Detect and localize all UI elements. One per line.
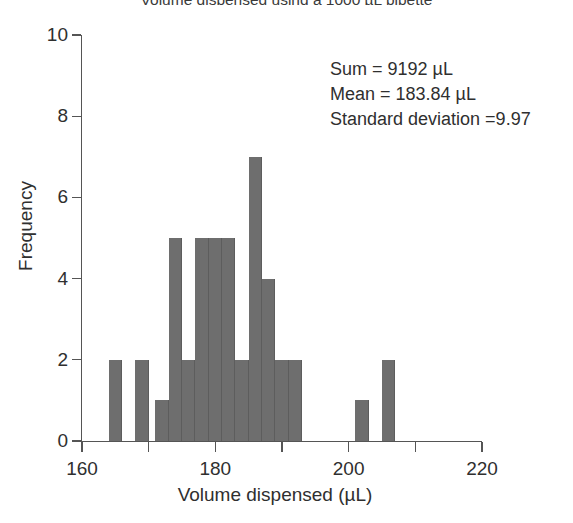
stat-mean: Mean = 183.84 µL	[330, 82, 573, 107]
x-tick-label-220: 220	[447, 459, 517, 479]
x-tick-210	[415, 442, 416, 452]
histogram-bar	[135, 360, 148, 441]
y-tick-0	[72, 440, 81, 441]
x-tick-180	[215, 442, 216, 452]
y-tick-label-2: 2	[22, 350, 68, 369]
x-tick-170	[148, 442, 149, 452]
histogram-bar	[209, 238, 222, 441]
histogram-bar	[355, 400, 368, 441]
x-tick-160	[81, 442, 82, 452]
x-axis-title: Volume dispensed (µL)	[40, 484, 510, 505]
y-tick-4	[72, 278, 81, 279]
x-tick-label-160: 160	[47, 459, 117, 479]
y-tick-label-0: 0	[22, 431, 68, 450]
histogram-bar	[155, 400, 168, 441]
y-tick-6	[72, 197, 81, 198]
histogram-bar	[289, 360, 302, 441]
y-axis-title: Frequency	[16, 126, 36, 326]
y-tick-10	[72, 34, 81, 35]
histogram-bar	[262, 279, 275, 441]
x-tick-200	[348, 442, 349, 452]
histogram-bar	[169, 238, 182, 441]
y-tick-label-10: 10	[22, 25, 68, 44]
histogram-bar	[249, 157, 262, 441]
histogram-bar	[195, 238, 208, 441]
y-tick-8	[72, 116, 81, 117]
x-tick-label-200: 200	[314, 459, 384, 479]
x-tick-190	[281, 442, 282, 452]
histogram-bar	[235, 360, 248, 441]
x-tick-220	[481, 442, 482, 452]
y-tick-2	[72, 359, 81, 360]
histogram-bar	[382, 360, 395, 441]
histogram-bar	[109, 360, 122, 441]
chart-title: Volume dispensed using a 1000 µL pipette	[0, 0, 573, 5]
y-tick-label-8: 8	[22, 106, 68, 125]
x-tick-label-180: 180	[180, 459, 250, 479]
histogram-figure: Volume dispensed using a 1000 µL pipette…	[0, 0, 573, 523]
stat-sum: Sum = 9192 µL	[330, 57, 573, 82]
histogram-bar	[275, 360, 288, 441]
histogram-bar	[182, 360, 195, 441]
stat-std: Standard deviation =9.97	[330, 107, 573, 132]
statistics-annotation: Sum = 9192 µL Mean = 183.84 µL Standard …	[330, 57, 573, 132]
histogram-bar	[222, 238, 235, 441]
